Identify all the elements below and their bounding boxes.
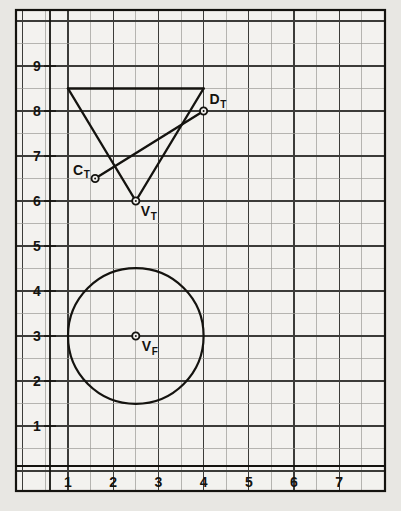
x-axis-tick-label: 1 xyxy=(64,474,72,490)
x-axis-tick-label: 2 xyxy=(109,474,117,490)
x-axis-tick-label: 4 xyxy=(200,474,208,490)
y-axis-tick-label: 4 xyxy=(33,283,41,299)
point-label-subscript: F xyxy=(152,346,158,357)
y-axis-tick-label: 2 xyxy=(33,373,41,389)
y-axis-tick-label: 8 xyxy=(33,103,41,119)
point-center-dot xyxy=(135,335,137,337)
x-axis-tick-label: 3 xyxy=(155,474,163,490)
x-axis-tick-label: 7 xyxy=(335,474,343,490)
point-center-dot xyxy=(94,178,96,180)
point-label-subscript: T xyxy=(84,169,90,180)
y-axis-tick-label: 5 xyxy=(33,238,41,254)
y-axis-tick-label: 6 xyxy=(33,193,41,209)
point-center-dot xyxy=(135,200,137,202)
point-center-dot xyxy=(203,110,205,112)
x-axis-tick-label: 6 xyxy=(290,474,298,490)
point-label-subscript: T xyxy=(151,211,157,222)
engineering-drawing-figure: CTDTVTVF1234567123456789 xyxy=(0,0,401,511)
y-axis-tick-label: 9 xyxy=(33,58,41,74)
y-axis-tick-label: 1 xyxy=(33,418,41,434)
figure-canvas: CTDTVTVF1234567123456789 xyxy=(0,0,401,511)
x-axis-tick-label: 5 xyxy=(245,474,253,490)
point-label-subscript: T xyxy=(220,99,226,110)
graph-paper-background xyxy=(16,10,385,491)
y-axis-tick-label: 7 xyxy=(33,148,41,164)
y-axis-tick-label: 3 xyxy=(33,328,41,344)
